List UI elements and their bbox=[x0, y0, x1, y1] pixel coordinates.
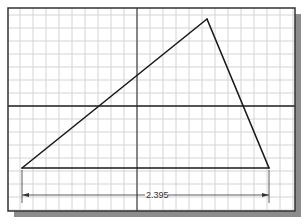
cad-sketch-canvas: 2.395 bbox=[0, 0, 305, 224]
sketch-frame bbox=[8, 8, 295, 211]
dimension-value[interactable]: 2.395 bbox=[146, 190, 169, 200]
frame-background bbox=[8, 8, 295, 211]
